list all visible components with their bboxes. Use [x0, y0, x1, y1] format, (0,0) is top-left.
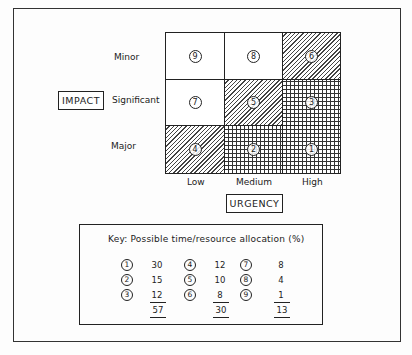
- cell-major-high: 1: [283, 126, 340, 173]
- cell-significant-low: 7: [166, 80, 225, 126]
- key-priority: 7: [240, 259, 252, 271]
- key-column-1: 130 215 312 57: [121, 257, 166, 318]
- key-value: 15: [149, 275, 165, 285]
- col-label-low: Low: [187, 177, 205, 187]
- row-label-minor: Minor: [114, 52, 139, 62]
- key-value: 10: [212, 275, 228, 285]
- cell-minor-medium: 8: [225, 33, 283, 80]
- key-priority: 2: [121, 274, 133, 286]
- priority-badge: 8: [247, 50, 260, 63]
- key-priority: 5: [184, 274, 196, 286]
- key-value: 12: [212, 260, 228, 270]
- priority-badge: 3: [305, 96, 318, 109]
- key-title: Key: Possible time/resource allocation (…: [108, 234, 304, 244]
- key-priority: 6: [184, 289, 196, 301]
- key-value: 4: [273, 275, 289, 285]
- cell-major-low: 4: [166, 126, 225, 173]
- priority-matrix: 9 8 6 7 5 3 4 2 1: [165, 32, 341, 174]
- cell-minor-high: 6: [283, 33, 340, 80]
- cell-significant-high: 3: [283, 80, 340, 126]
- key-value: 8: [273, 260, 289, 270]
- key-value: 30: [149, 260, 165, 270]
- priority-badge: 7: [189, 96, 202, 109]
- allocation-key: Key: Possible time/resource allocation (…: [79, 224, 323, 325]
- sum-rule: [150, 302, 166, 303]
- key-total: 30: [213, 304, 229, 317]
- key-priority: 9: [240, 289, 252, 301]
- row-label-significant: Significant: [112, 95, 160, 105]
- key-value: 8: [212, 290, 228, 300]
- col-label-medium: Medium: [236, 177, 272, 187]
- key-value: 1: [273, 290, 289, 300]
- priority-badge: 5: [247, 96, 260, 109]
- priority-badge: 9: [189, 50, 202, 63]
- urgency-axis-label: URGENCY: [226, 194, 283, 213]
- cell-minor-low: 9: [166, 33, 225, 80]
- total-rule: [150, 317, 166, 318]
- priority-badge: 6: [305, 50, 318, 63]
- row-label-major: Major: [111, 141, 136, 151]
- cell-significant-medium: 5: [225, 80, 283, 126]
- sum-rule: [274, 302, 290, 303]
- key-total: 57: [150, 304, 166, 317]
- key-priority: 8: [240, 274, 252, 286]
- cell-major-medium: 2: [225, 126, 283, 173]
- key-priority: 4: [184, 259, 196, 271]
- impact-axis-label: IMPACT: [58, 91, 104, 110]
- total-rule: [213, 317, 229, 318]
- priority-badge: 2: [247, 143, 260, 156]
- key-column-2: 412 510 68 30: [184, 257, 229, 318]
- priority-badge: 4: [189, 143, 202, 156]
- priority-badge: 1: [305, 143, 318, 156]
- sum-rule: [213, 302, 229, 303]
- total-rule: [274, 317, 290, 318]
- key-total: 13: [274, 304, 290, 317]
- key-priority: 1: [121, 259, 133, 271]
- key-column-3: 78 84 91 13: [240, 257, 290, 318]
- key-priority: 3: [121, 289, 133, 301]
- col-label-high: High: [302, 177, 323, 187]
- key-value: 12: [149, 290, 165, 300]
